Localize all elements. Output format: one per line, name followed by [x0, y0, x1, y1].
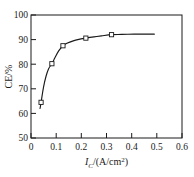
- data-point-marker: [84, 36, 88, 40]
- chart-plot: 50 60 70 80 90 100 0 0.1 0.2 0.3 0.4 0.5…: [0, 0, 194, 177]
- y-tick-label: 80: [19, 60, 29, 70]
- x-axis-title-close: ): [125, 156, 128, 168]
- y-tick-label: 60: [19, 109, 29, 119]
- x-tick-label: 0.1: [50, 142, 62, 152]
- data-point-marker: [109, 33, 113, 37]
- x-tick-label: 0.6: [176, 142, 188, 152]
- y-axis-title: CE/%: [3, 65, 14, 89]
- y-tick-label: 70: [19, 84, 29, 94]
- y-tick-label: 90: [19, 35, 29, 45]
- data-point-marker: [61, 44, 65, 48]
- figure-container: 50 60 70 80 90 100 0 0.1 0.2 0.3 0.4 0.5…: [0, 0, 194, 177]
- y-tick-label: 50: [19, 133, 29, 143]
- data-point-marker: [50, 62, 54, 66]
- y-tick-label: 100: [14, 10, 29, 20]
- x-tick-label: 0.4: [126, 142, 138, 152]
- x-axis-title-units: /(A/cm: [93, 156, 122, 168]
- x-tick-label: 0.5: [151, 142, 163, 152]
- data-point-marker: [39, 100, 43, 104]
- x-tick-label: 0.2: [75, 142, 87, 152]
- x-tick-label: 0.3: [101, 142, 113, 152]
- x-tick-label: 0: [29, 142, 34, 152]
